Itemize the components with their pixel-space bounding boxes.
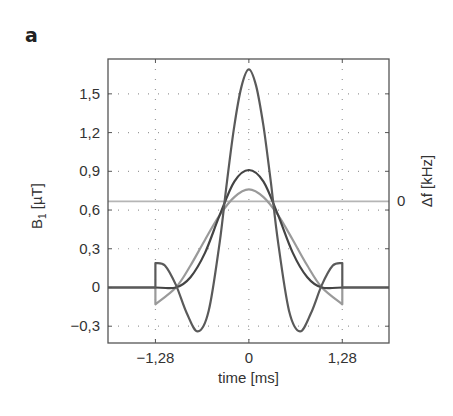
y2-axis-label: Δf [kHz]	[418, 155, 435, 208]
x-tick-label: 0	[245, 349, 253, 366]
y-tick-label: 1,2	[79, 124, 100, 141]
y-tick-label: 0,6	[79, 201, 100, 218]
data-curves	[108, 69, 389, 331]
tick-labels: 1,51,20,90,60,30−0,3−1,2801,280	[70, 85, 405, 366]
x-tick-label: −1,28	[136, 349, 174, 366]
y-tick-label: 0,3	[79, 240, 100, 257]
x-axis-label: time [ms]	[218, 369, 279, 386]
y-tick-label: 1,5	[79, 85, 100, 102]
y-tick-label: 0	[92, 278, 100, 295]
y-axis-label: B1 [µT]	[28, 183, 48, 229]
y-axis-label-main: B	[28, 219, 45, 229]
y-tick-label: −0,3	[70, 317, 100, 334]
y-tick-label: 0,9	[79, 162, 100, 179]
y2-tick-label: 0	[397, 192, 405, 209]
chart: 1,51,20,90,60,30−0,3−1,2801,280 time [ms…	[0, 0, 453, 416]
series-line-2	[155, 189, 342, 304]
x-tick-label: 1,28	[328, 349, 357, 366]
y-axis-label-unit: [µT]	[28, 183, 45, 213]
series-line-0	[108, 69, 389, 331]
